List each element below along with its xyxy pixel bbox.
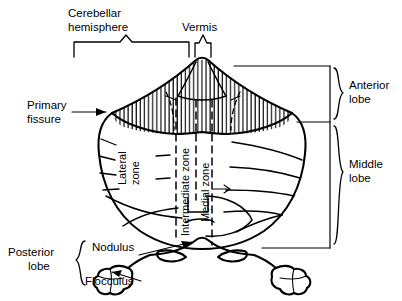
lateral-zone-label-line1: Lateral	[116, 151, 128, 185]
vermis-label: Vermis	[182, 21, 217, 33]
cerebellum-diagram: Cerebellar hemisphere Vermis Anterior lo…	[0, 0, 402, 301]
left-lower-fissures	[106, 196, 182, 226]
intermediate-zone-label: Intermediate zone	[179, 148, 191, 236]
anterior-lobe-label-line2: lobe	[349, 93, 371, 105]
right-fissures	[224, 142, 302, 232]
cerebellar-hemisphere-label-line2: hemisphere	[68, 21, 128, 33]
medial-zone-label: Medial zone	[199, 163, 211, 222]
right-inner-lobule	[206, 196, 252, 236]
anterior-lobe-brace	[334, 68, 343, 119]
flocculus-label: Flocculus	[85, 275, 134, 287]
posterior-lobe-label-line1: Posterior	[8, 246, 54, 258]
anterior-lobe-hatching	[100, 50, 304, 145]
cerebellar-hemisphere-brace	[74, 35, 189, 57]
middle-lobe-label-line1: Middle	[349, 158, 383, 170]
diagram-canvas: Cerebellar hemisphere Vermis Anterior lo…	[0, 0, 402, 301]
vermis-brace	[195, 35, 211, 57]
middle-lobe-brace	[334, 126, 343, 244]
anterior-lobe-label-line1: Anterior	[349, 79, 389, 91]
primary-fissure-label-line2: fissure	[27, 113, 61, 125]
middle-lobe-label-line2: lobe	[349, 172, 371, 184]
posterior-lobe-brace	[76, 241, 85, 285]
posterior-lobe-label-line2: lobe	[28, 260, 50, 272]
cerebellar-hemisphere-label-line1: Cerebellar	[68, 7, 121, 19]
nodulus-label: Nodulus	[92, 241, 134, 253]
lateral-zone-label-line2: zone	[129, 161, 141, 185]
left-lateral-dashes	[156, 155, 170, 179]
primary-fissure-leader	[72, 108, 106, 116]
primary-fissure-label-line1: Primary	[27, 99, 67, 111]
